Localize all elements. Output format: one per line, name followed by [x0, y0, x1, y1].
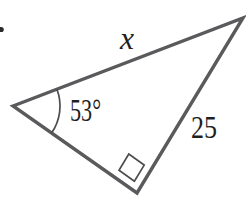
list-marker-dot: [0, 27, 4, 32]
side-label-25: 25: [191, 109, 217, 145]
triangle-figure: x 53° 25: [0, 0, 246, 208]
angle-label-53: 53°: [70, 92, 101, 128]
right-angle-marker: [119, 154, 144, 181]
geometry-diagram: x 53° 25: [0, 0, 246, 208]
side-label-x: x: [119, 20, 134, 56]
angle-arc: [52, 89, 61, 133]
